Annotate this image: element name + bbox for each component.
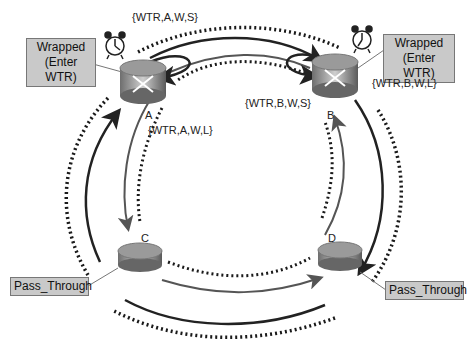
message-a-short: {WTR,A,W,S} [132,11,198,23]
node-d-state-label: Pass_Through [385,281,464,300]
message-b-long: {WTR,B,W,L} [372,77,437,89]
node-a-state-label: Wrapped (Enter WTR) [26,38,96,87]
router-a [120,60,166,104]
router-d [318,242,362,271]
state-line-2: (Enter WTR) [30,55,92,85]
state-line-1: Pass_Through [389,283,460,298]
node-a-letter: A [145,109,152,121]
alarm-clock-icon [105,32,125,59]
message-a-long: {WTR,A,W,L} [148,124,213,136]
router-b [312,54,358,98]
state-line-1: Pass_Through [14,279,85,294]
node-b-letter: B [327,109,334,121]
node-b-state-label: Wrapped (Enter WTR) [383,34,455,83]
node-c-letter: C [141,232,149,244]
state-line-1: Wrapped [30,40,92,55]
state-line-1: Wrapped [387,36,451,51]
router-c [118,243,162,272]
message-b-short: {WTR,B,W,S} [245,97,311,109]
node-d-letter: D [328,232,336,244]
inner-dotted-ring [138,62,332,276]
alarm-clock-icon [352,26,372,53]
node-c-state-label: Pass_Through [10,277,89,296]
